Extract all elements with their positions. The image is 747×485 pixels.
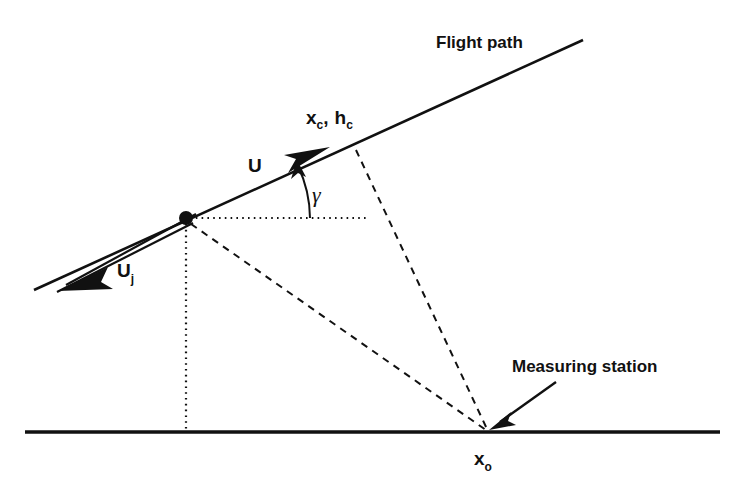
flight-path-angle-label: γ <box>312 182 322 207</box>
slant-range-node-to-station <box>191 224 486 430</box>
emission-point-x-symbol: x <box>306 107 317 128</box>
flight-path-geometry-figure: Flight path xc,hc U Uj γ Measuring stati… <box>0 0 747 485</box>
svg-text:xo: xo <box>474 448 492 474</box>
flight-path-line <box>34 40 583 290</box>
emission-point-h-symbol: h <box>335 107 347 128</box>
svg-text:xc,hc: xc,hc <box>306 107 353 132</box>
emission-point-comma: , <box>323 107 328 128</box>
emission-point-label: xc,hc <box>306 107 353 132</box>
station-coordinate-label: xo <box>474 448 492 474</box>
station-x-symbol: x <box>474 448 485 469</box>
flight-path-label: Flight path <box>436 33 523 52</box>
diagram-canvas: Flight path xc,hc U Uj γ Measuring stati… <box>0 0 747 485</box>
jet-speed-symbol: U <box>117 260 131 281</box>
aircraft-speed-label: U <box>248 155 262 176</box>
measuring-station-label: Measuring station <box>512 357 657 376</box>
jet-vector-lower-edge <box>57 223 193 292</box>
jet-vector-arrowhead <box>58 267 113 291</box>
emission-point-h-subscript: c <box>346 118 353 132</box>
svg-text:Uj: Uj <box>117 260 134 286</box>
propagation-path-emission-to-station <box>356 150 487 429</box>
jet-speed-subscript: j <box>130 272 134 286</box>
aircraft-velocity-arrowhead <box>284 147 330 173</box>
station-x-subscript: o <box>485 460 492 474</box>
jet-speed-label: Uj <box>117 260 134 286</box>
